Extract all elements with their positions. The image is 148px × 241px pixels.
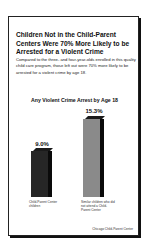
bar-cpc-children [31, 151, 52, 197]
bar-category-label: Similar children who did not attend a Ch… [81, 200, 115, 213]
bar-value-label: 15.3% [80, 108, 108, 114]
infographic-card: Children Not in the Child-Parent Centers… [8, 16, 139, 236]
bar-category-label: Child-Parent Center children [29, 200, 59, 208]
chart-subtitle: Any Violent Crime Arrest by Age 18 [9, 97, 140, 103]
bar-non-cpc-children [83, 119, 104, 197]
chart-title: Children Not in the Child-Parent Centers… [16, 31, 136, 57]
bar-value-label: 9.0% [29, 141, 55, 147]
description: Compared to the three- and four-year-old… [16, 57, 138, 76]
source-credit: Chicago Child-Parent Center [92, 227, 133, 231]
